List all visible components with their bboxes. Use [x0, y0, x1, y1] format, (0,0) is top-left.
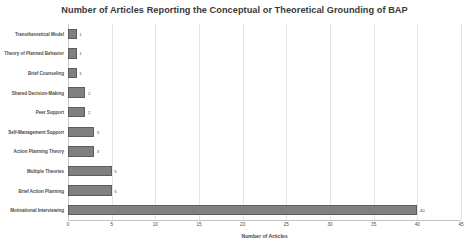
bar-row: 3 [68, 127, 461, 138]
bar [68, 68, 77, 79]
bar-value-label: 5 [114, 188, 116, 193]
bar-row: 1 [68, 48, 461, 59]
bar [68, 205, 417, 216]
bar-row: 2 [68, 87, 461, 98]
bar-row: 1 [68, 68, 461, 79]
bar-value-label: 1 [79, 51, 81, 56]
plot-area: 11122335540 [68, 24, 461, 220]
bar [68, 48, 77, 59]
y-axis-category-labels: Transtheoretical ModelTheory of Planned … [0, 24, 64, 220]
bar-row: 5 [68, 166, 461, 177]
bar-chart: Number of Articles Reporting the Concept… [0, 0, 469, 249]
y-axis-label: Brief Action Planning [0, 188, 64, 193]
x-tick-label: 0 [67, 222, 70, 227]
bar-row: 3 [68, 146, 461, 157]
y-axis-label: Self-Management Support [0, 129, 64, 134]
bar [68, 166, 112, 177]
bar-row: 5 [68, 185, 461, 196]
bar [68, 87, 85, 98]
y-axis-label: Multiple Theories [0, 169, 64, 174]
bar-value-label: 1 [79, 71, 81, 76]
y-axis-label: Action Planning Theory [0, 149, 64, 154]
bar-value-label: 3 [97, 129, 99, 134]
bars-layer: 11122335540 [68, 24, 461, 220]
chart-title: Number of Articles Reporting the Concept… [0, 5, 469, 15]
x-tick-label: 10 [153, 222, 158, 227]
bar [68, 127, 94, 138]
bar-value-label: 5 [114, 169, 116, 174]
x-tick-label: 25 [284, 222, 289, 227]
x-tick-label: 35 [371, 222, 376, 227]
x-tick-label: 15 [196, 222, 201, 227]
bar-row: 1 [68, 29, 461, 40]
bar-value-label: 2 [88, 90, 90, 95]
y-axis-label: Transtheoretical Model [0, 31, 64, 36]
x-tick-label: 5 [110, 222, 113, 227]
x-axis-title: Number of Articles [68, 233, 461, 239]
bar [68, 185, 112, 196]
x-axis-line [68, 220, 461, 221]
bar [68, 107, 85, 118]
bar [68, 29, 77, 40]
y-axis-label: Motivational Interviewing [0, 208, 64, 213]
y-axis-label: Shared Decision-Making [0, 90, 64, 95]
bar-value-label: 40 [420, 208, 425, 213]
bar-value-label: 3 [97, 149, 99, 154]
bar-value-label: 1 [79, 31, 81, 36]
y-axis-label: Theory of Planned Behavior [0, 51, 64, 56]
x-tick-label: 20 [240, 222, 245, 227]
bar-row: 2 [68, 107, 461, 118]
y-axis-label: Peer Support [0, 110, 64, 115]
x-tick-label: 45 [458, 222, 463, 227]
gridline [461, 24, 462, 220]
x-tick-label: 40 [415, 222, 420, 227]
bar-row: 40 [68, 205, 461, 216]
x-tick-label: 30 [327, 222, 332, 227]
y-axis-label: Brief Counseling [0, 71, 64, 76]
bar-value-label: 2 [88, 110, 90, 115]
bar [68, 146, 94, 157]
